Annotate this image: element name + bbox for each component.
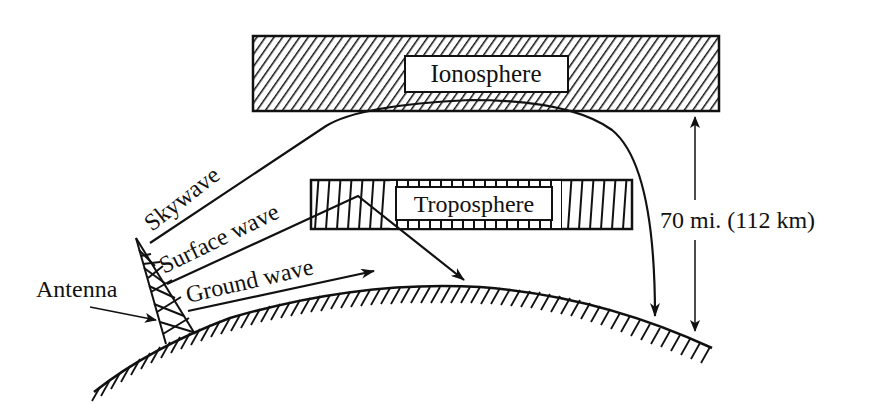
antenna-label: Antenna bbox=[36, 276, 118, 302]
troposphere-label: Troposphere bbox=[414, 191, 534, 217]
wave-propagation-diagram: Ionosphere Troposphere bbox=[0, 0, 870, 404]
height-dimension-label: 70 mi. (112 km) bbox=[660, 207, 815, 233]
ground-wave-label: Ground wave bbox=[183, 253, 315, 308]
skywave-label: Skywave bbox=[139, 161, 224, 236]
antenna-pointer-arrow bbox=[90, 307, 156, 320]
earth-surface bbox=[92, 286, 712, 401]
ionosphere-label: Ionosphere bbox=[430, 60, 541, 87]
troposphere-layer: Troposphere bbox=[311, 180, 632, 229]
